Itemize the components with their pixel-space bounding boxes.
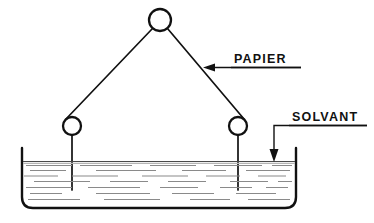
- top-pulley-icon: [149, 9, 171, 31]
- left-pulley-icon: [63, 117, 81, 135]
- liquid-hatch-lines: [24, 166, 292, 200]
- papier-annotation: PAPIER: [203, 52, 301, 72]
- solvent-liquid: [23, 161, 295, 199]
- solvant-label: SOLVANT: [292, 110, 358, 124]
- paper-diagonal-right: [168, 29, 245, 120]
- diagram-canvas: PAPIER SOLVANT: [0, 0, 374, 223]
- solvant-arrow-head-icon: [270, 149, 279, 162]
- solvant-leader-line: [274, 126, 367, 155]
- liquid-surface-band: [23, 161, 295, 163]
- right-pulley-icon: [229, 117, 247, 135]
- chromatography-diagram: PAPIER SOLVANT: [0, 0, 374, 223]
- pulley-group: [63, 9, 247, 135]
- papier-label: PAPIER: [234, 52, 287, 66]
- papier-arrow-head-icon: [203, 64, 215, 72]
- solvant-annotation: SOLVANT: [270, 110, 368, 162]
- paper-diagonal-left: [66, 29, 153, 120]
